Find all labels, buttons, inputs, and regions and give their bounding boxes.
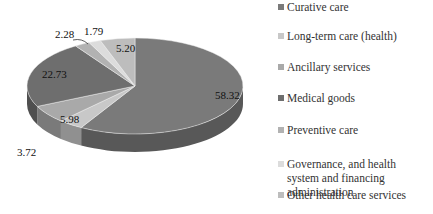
legend-swatch xyxy=(278,127,284,133)
label-preventive: 2.28 xyxy=(55,28,74,40)
legend-label: Medical goods xyxy=(287,91,355,105)
legend-label: Long-term care (health) xyxy=(287,29,397,43)
label-longterm: 3.72 xyxy=(17,146,36,158)
label-curative: 58.32 xyxy=(215,89,240,101)
legend-label: Curative care xyxy=(287,0,349,14)
legend-item-longterm: Long-term care (health) xyxy=(278,29,397,43)
legend-swatch xyxy=(278,192,284,198)
label-governance: 1.79 xyxy=(84,25,103,37)
label-ancillary: 5.98 xyxy=(60,113,79,125)
label-other: 5.20 xyxy=(116,42,135,54)
legend-swatch xyxy=(278,95,284,101)
legend-swatch xyxy=(278,33,284,39)
legend-swatch xyxy=(278,161,284,167)
legend-swatch xyxy=(278,64,284,70)
legend-label: Preventive care xyxy=(287,123,358,137)
legend-item-ancillary: Ancillary services xyxy=(278,60,370,74)
legend-label: Other health care services xyxy=(287,188,406,202)
legend-swatch xyxy=(278,4,284,10)
legend-item-other: Other health care services xyxy=(278,188,406,202)
legend-item-medical: Medical goods xyxy=(278,91,355,105)
legend-label: Ancillary services xyxy=(287,60,370,74)
legend-item-curative: Curative care xyxy=(278,0,349,14)
label-medical: 22.73 xyxy=(42,68,67,80)
legend-item-preventive: Preventive care xyxy=(278,123,358,137)
